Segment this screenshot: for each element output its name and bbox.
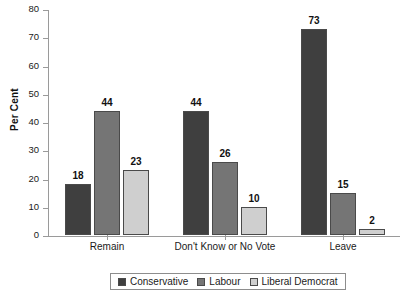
x-axis-tick-mark (225, 235, 226, 240)
y-axis-tick-label: 60 (28, 60, 39, 71)
y-axis-tick-label: 30 (28, 144, 39, 155)
bar-value-label: 18 (72, 170, 83, 181)
bar-group: 184423Remain (65, 9, 149, 235)
bar-value-label: 23 (130, 156, 141, 167)
y-axis-tick-mark (43, 38, 48, 39)
legend-item[interactable]: Liberal Democrat (250, 276, 338, 287)
bar-rect (301, 29, 327, 235)
y-axis-line (48, 10, 49, 237)
bar-rect (183, 111, 209, 235)
y-axis-tick-mark (43, 123, 48, 124)
bar-group-bars: 184423 (65, 9, 149, 235)
bar-rect (212, 162, 238, 235)
y-axis-tick-label: 10 (28, 201, 39, 212)
y-axis-tick-label: 40 (28, 116, 39, 127)
bar-group-bars: 73152 (301, 9, 385, 235)
x-axis-line (48, 236, 400, 237)
bar-value-label: 44 (101, 97, 112, 108)
bar-rect (123, 170, 149, 235)
y-axis-tick-mark (43, 236, 48, 237)
x-axis-category-label: Remain (90, 241, 124, 252)
bar[interactable]: 73 (301, 9, 327, 235)
bar-group-bars: 442610 (183, 9, 267, 235)
bar-value-label: 15 (337, 179, 348, 190)
chart-legend: ConservativeLabourLiberal Democrat (110, 273, 346, 290)
bar[interactable]: 18 (65, 9, 91, 235)
bar-rect (65, 184, 91, 235)
bar[interactable]: 2 (359, 9, 385, 235)
legend-swatch-icon (250, 278, 258, 286)
legend-label: Labour (209, 276, 240, 287)
bar-rect (330, 193, 356, 235)
bar-chart: Per Cent 80706050403020100 184423Remain4… (0, 0, 416, 298)
bar[interactable]: 44 (183, 9, 209, 235)
legend-label: Liberal Democrat (262, 276, 338, 287)
bar[interactable]: 15 (330, 9, 356, 235)
y-axis-tick-mark (43, 208, 48, 209)
y-axis-tick-label: 0 (34, 229, 39, 240)
y-axis-title: Per Cent (9, 75, 20, 145)
bar[interactable]: 44 (94, 9, 120, 235)
x-axis-category-label: Leave (329, 241, 356, 252)
bar-rect (241, 207, 267, 235)
legend-swatch-icon (118, 278, 126, 286)
y-axis-tick-label: 80 (28, 3, 39, 14)
x-axis-tick-mark (343, 235, 344, 240)
bar[interactable]: 26 (212, 9, 238, 235)
bar-value-label: 44 (190, 97, 201, 108)
bar[interactable]: 23 (123, 9, 149, 235)
legend-label: Conservative (130, 276, 188, 287)
legend-swatch-icon (197, 278, 205, 286)
x-axis-category-label: Don't Know or No Vote (175, 241, 276, 252)
legend-item[interactable]: Labour (197, 276, 240, 287)
x-axis-tick-mark (107, 235, 108, 240)
bar-group: 442610Don't Know or No Vote (183, 9, 267, 235)
y-axis-tick-mark (43, 151, 48, 152)
y-axis-tick-label: 50 (28, 88, 39, 99)
bar-group: 73152Leave (301, 9, 385, 235)
bar-rect (359, 229, 385, 235)
bar-value-label: 2 (369, 215, 375, 226)
legend-item[interactable]: Conservative (118, 276, 188, 287)
bar-value-label: 10 (248, 193, 259, 204)
bar-value-label: 73 (308, 15, 319, 26)
bar[interactable]: 10 (241, 9, 267, 235)
bar-value-label: 26 (219, 148, 230, 159)
y-axis-tick-mark (43, 10, 48, 11)
plot-area: 80706050403020100 184423Remain442610Don'… (48, 10, 400, 236)
y-axis-tick-mark (43, 95, 48, 96)
bar-rect (94, 111, 120, 235)
y-axis-tick-label: 70 (28, 31, 39, 42)
y-axis-tick-label: 20 (28, 173, 39, 184)
y-axis-tick-mark (43, 180, 48, 181)
y-axis-tick-mark (43, 67, 48, 68)
